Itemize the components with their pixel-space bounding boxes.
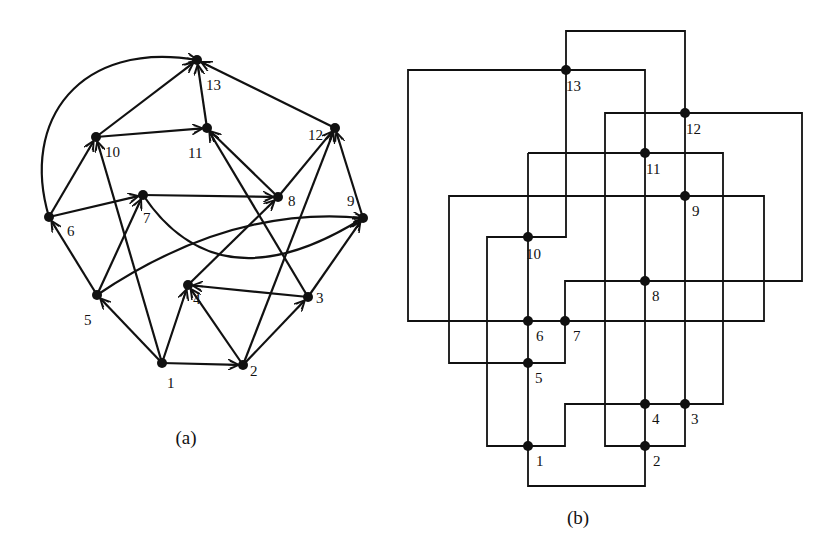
node-label-12: 12 (686, 121, 701, 137)
edge-7-to-8 (143, 195, 273, 197)
edge-6-to-7 (49, 196, 138, 217)
node-label-11: 11 (646, 161, 660, 177)
edge-1-to-2 (162, 363, 238, 365)
node-label-11: 11 (188, 145, 202, 161)
node-6 (523, 316, 533, 326)
edge-3-to-4 (193, 285, 308, 297)
node-8 (273, 192, 283, 202)
node-2 (238, 360, 248, 370)
node-3 (680, 399, 690, 409)
node-label-1: 1 (167, 375, 175, 391)
node-label-4: 4 (193, 291, 201, 307)
panel-a-nodes: 12345678910111213 (44, 55, 368, 391)
caption-b: (b) (567, 507, 589, 529)
graph-figure: 12345678910111213 (a) 12345678910111213 … (0, 0, 840, 558)
node-label-10: 10 (105, 144, 120, 160)
node-label-6: 6 (67, 223, 75, 239)
node-label-9: 9 (347, 193, 355, 209)
node-6 (44, 212, 54, 222)
edge-4-to-8 (188, 200, 274, 285)
node-13 (561, 65, 571, 75)
edge-10-to-13 (96, 63, 193, 137)
node-label-13: 13 (206, 77, 221, 93)
node-label-10: 10 (526, 246, 541, 262)
node-label-2: 2 (653, 453, 661, 469)
node-11 (640, 148, 650, 158)
node-label-8: 8 (652, 288, 660, 304)
edge-2-to-12 (243, 133, 333, 365)
node-label-4: 4 (652, 411, 660, 427)
node-label-2: 2 (250, 363, 258, 379)
node-13 (192, 55, 202, 65)
panel-b-nodes: 12345678910111213 (523, 65, 701, 469)
node-label-9: 9 (692, 203, 700, 219)
node-label-3: 3 (691, 411, 699, 427)
node-1 (523, 441, 533, 451)
edge-2-to-3 (243, 301, 305, 365)
edge-8-to-11 (211, 131, 278, 197)
node-7 (560, 316, 570, 326)
node-2 (640, 441, 650, 451)
edge-6-to-10 (49, 141, 93, 217)
panel-a-directed-graph: 12345678910111213 (a) (42, 55, 368, 449)
node-label-7: 7 (143, 210, 151, 226)
node-10 (91, 132, 101, 142)
wire-0 (408, 31, 802, 486)
panel-b-wires (408, 31, 802, 486)
node-label-13: 13 (566, 78, 581, 94)
node-label-5: 5 (84, 312, 92, 328)
node-5 (523, 358, 533, 368)
node-label-1: 1 (536, 453, 544, 469)
node-12 (330, 123, 340, 133)
node-12 (680, 108, 690, 118)
node-label-3: 3 (316, 290, 324, 306)
node-4 (640, 399, 650, 409)
node-label-7: 7 (573, 328, 581, 344)
edge-8-to-12 (278, 132, 332, 197)
edge-12-to-13 (201, 62, 335, 128)
node-label-12: 12 (308, 127, 323, 143)
node-1 (157, 358, 167, 368)
node-9 (680, 191, 690, 201)
panel-b-orthogonal-layout: 12345678910111213 (b) (408, 31, 802, 529)
node-7 (138, 190, 148, 200)
edge-6-to-13 (42, 57, 197, 217)
edge-11-to-13 (198, 65, 207, 128)
caption-a: (a) (175, 427, 196, 449)
node-11 (202, 123, 212, 133)
node-9 (358, 213, 368, 223)
edge-1-to-4 (162, 290, 186, 363)
node-label-6: 6 (536, 328, 544, 344)
edge-10-to-11 (96, 128, 202, 137)
node-3 (303, 292, 313, 302)
node-label-8: 8 (288, 193, 296, 209)
node-label-5: 5 (535, 370, 543, 386)
node-10 (523, 232, 533, 242)
node-8 (640, 276, 650, 286)
node-4 (183, 280, 193, 290)
node-5 (92, 290, 102, 300)
